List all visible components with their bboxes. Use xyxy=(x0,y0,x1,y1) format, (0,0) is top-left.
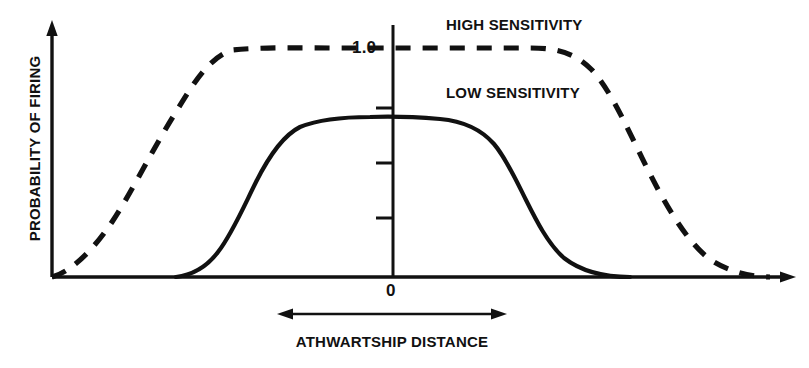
x-axis-label: ATHWARTSHIP DISTANCE xyxy=(268,333,516,350)
chart-plot-area xyxy=(0,0,809,368)
x-tick-label-zero: 0 xyxy=(386,281,396,301)
series-label-low-sensitivity: LOW SENSITIVITY xyxy=(446,84,580,101)
y-axis xyxy=(46,20,57,277)
y-tick-label-1.0: 1.0 xyxy=(352,38,376,58)
series-label-high-sensitivity: HIGH SENSITIVITY xyxy=(446,16,583,33)
series-high-sensitivity xyxy=(52,48,770,277)
series-low-sensitivity xyxy=(176,117,630,277)
athwartship-extent-arrow xyxy=(277,309,507,320)
center-axis-ticks xyxy=(376,108,393,218)
y-axis-label: PROBABILITY OF FIRING xyxy=(26,39,43,259)
chart-figure: PROBABILITY OF FIRING 1.0 0 HIGH SENSITI… xyxy=(0,0,809,368)
x-axis xyxy=(52,272,796,283)
